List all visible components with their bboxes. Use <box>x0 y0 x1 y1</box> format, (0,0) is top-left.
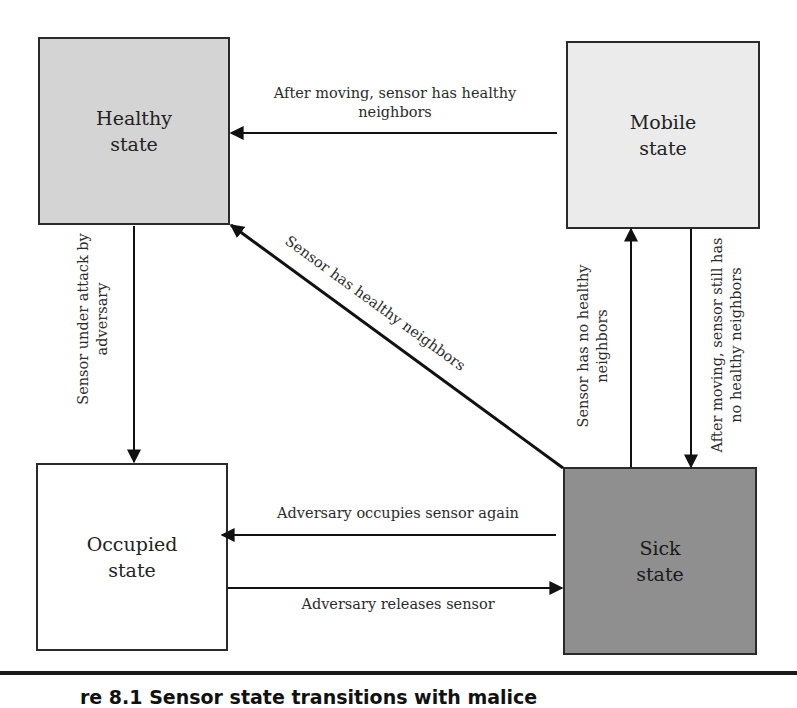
label-mobile-to-healthy-line1: After moving, sensor has healthy <box>245 84 545 103</box>
figure-caption: re 8.1 Sensor state transitions with mal… <box>80 686 537 708</box>
label-healthy-to-occupied: Sensor under attack by adversary <box>74 219 114 419</box>
label-healthy-to-occupied-line1: Sensor under attack by <box>74 219 93 419</box>
label-sick-to-mobile-line2: neighbors <box>593 246 612 446</box>
label-mobile-to-healthy-line2: neighbors <box>245 103 545 122</box>
label-sick-to-mobile: Sensor has no healthy neighbors <box>574 246 614 446</box>
label-mobile-to-sick-line2: no healthy neighbors <box>727 220 746 470</box>
label-occupied-to-sick: Adversary releases sensor <box>268 595 528 614</box>
figure-divider <box>0 671 797 675</box>
label-mobile-to-healthy: After moving, sensor has healthy neighbo… <box>245 84 545 122</box>
label-sick-to-occupied-line1: Adversary occupies sensor again <box>268 504 528 523</box>
label-sick-to-mobile-line1: Sensor has no healthy <box>574 246 593 446</box>
label-mobile-to-sick-line1: After moving, sensor still has <box>708 220 727 470</box>
label-occupied-to-sick-line1: Adversary releases sensor <box>268 595 528 614</box>
arrow-sick-to-healthy <box>231 225 563 468</box>
label-healthy-to-occupied-line2: adversary <box>93 219 112 419</box>
label-sick-to-occupied: Adversary occupies sensor again <box>268 504 528 523</box>
label-mobile-to-sick: After moving, sensor still has no health… <box>708 220 748 470</box>
